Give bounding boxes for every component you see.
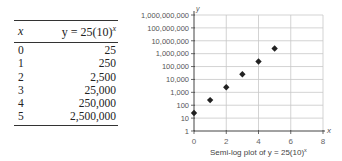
x-tick-label: 4 xyxy=(256,137,261,146)
chart-axes xyxy=(191,11,325,134)
chart-grid xyxy=(194,15,323,131)
y-tick-label: 100,000,000 xyxy=(147,24,189,33)
y-tick-label: 10,000 xyxy=(166,75,189,84)
chart-caption: Semi-log plot of y = 25(10)x xyxy=(210,147,307,157)
data-point-marker xyxy=(271,45,277,51)
y-axis-label: y xyxy=(195,5,200,13)
data-point-marker xyxy=(239,71,245,77)
y-tick-label: 1,000,000 xyxy=(156,49,189,58)
x-tick-labels: 02468 xyxy=(192,137,326,146)
data-point-marker xyxy=(255,58,261,64)
x-tick-label: 8 xyxy=(321,137,326,146)
data-point-marker xyxy=(223,84,229,90)
data-point-marker xyxy=(207,97,213,103)
x-axis-label: x xyxy=(326,126,332,135)
y-tick-label: 1,000 xyxy=(170,88,189,97)
x-tick-label: 6 xyxy=(289,137,294,146)
y-tick-label: 100,000 xyxy=(162,62,189,71)
y-tick-label: 100 xyxy=(176,101,189,110)
y-tick-label: 1,000,000,000 xyxy=(141,11,189,20)
data-point-marker xyxy=(191,110,197,116)
y-tick-label: 10,000,000 xyxy=(151,37,189,46)
y-tick-labels: 1101001,00010,000100,0001,000,00010,000,… xyxy=(141,11,189,136)
x-tick-label: 2 xyxy=(224,137,229,146)
semilog-chart: 1101001,00010,000100,0001,000,00010,000,… xyxy=(0,0,342,161)
y-tick-label: 1 xyxy=(185,127,189,136)
x-tick-label: 0 xyxy=(192,137,197,146)
y-tick-label: 10 xyxy=(181,114,189,123)
